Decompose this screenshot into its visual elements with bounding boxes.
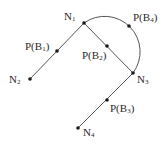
label-base: N xyxy=(83,126,91,138)
node-dot-n2 xyxy=(28,77,32,81)
edge-n1-n3-arc xyxy=(84,16,140,73)
label-subscript: 3 xyxy=(145,78,149,86)
label-base: N xyxy=(137,73,145,85)
point-label: P(B2) xyxy=(82,50,106,62)
label-base: N xyxy=(9,73,17,85)
label-base: P(B xyxy=(110,102,127,114)
node-dot-n1 xyxy=(82,21,86,25)
label-base: N xyxy=(64,10,72,22)
point-label: P(B3) xyxy=(110,103,134,115)
label-close: ) xyxy=(103,49,107,61)
node-label: N3 xyxy=(137,74,148,86)
label-close: ) xyxy=(154,11,158,23)
node-dot-n3 xyxy=(131,71,135,75)
point-dot-pb1 xyxy=(55,49,59,53)
label-subscript: 4 xyxy=(91,131,95,139)
point-dot-pb4 xyxy=(127,24,131,28)
point-dot-pb2 xyxy=(105,44,109,48)
node-dot-n4 xyxy=(76,126,80,130)
point-label: P(B1) xyxy=(25,41,49,53)
node-label: N1 xyxy=(64,11,75,23)
edge-n1-n3 xyxy=(84,23,133,73)
label-close: ) xyxy=(46,40,50,52)
label-base: P(B xyxy=(25,40,42,52)
label-subscript: 2 xyxy=(17,78,21,86)
node-label: N4 xyxy=(83,127,94,139)
label-close: ) xyxy=(131,102,135,114)
label-base: P(B xyxy=(133,11,150,23)
node-label: N2 xyxy=(9,74,20,86)
point-label: P(B4) xyxy=(133,12,157,24)
label-subscript: 1 xyxy=(72,15,76,23)
point-dot-pb3 xyxy=(105,98,109,102)
label-base: P(B xyxy=(82,49,99,61)
